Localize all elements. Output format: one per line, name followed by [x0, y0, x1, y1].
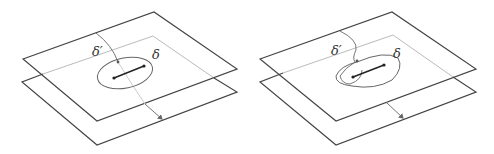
right-panel: δ′ δ [260, 12, 476, 145]
delta-label: δ [152, 47, 160, 62]
delta-prime-label: δ′ [92, 44, 103, 59]
diagram-canvas: δ′ δ δ′ δ [0, 0, 494, 154]
delta-prime-crossing-dot [356, 60, 359, 63]
two-panel-plane-diagram: δ′ δ δ′ δ [0, 0, 494, 154]
segment-endpoint [142, 64, 145, 67]
delta-prime-arrow-path [145, 104, 162, 119]
segment-endpoint [112, 76, 115, 79]
segment-endpoint [382, 63, 385, 66]
left-panel: δ′ δ [22, 12, 237, 145]
delta-label: δ [393, 46, 401, 61]
delta-prime-arrow-path [387, 103, 403, 118]
segment-endpoint [351, 75, 354, 78]
delta-prime-crossing-dot [117, 61, 120, 64]
delta-prime-label: δ′ [331, 43, 342, 58]
